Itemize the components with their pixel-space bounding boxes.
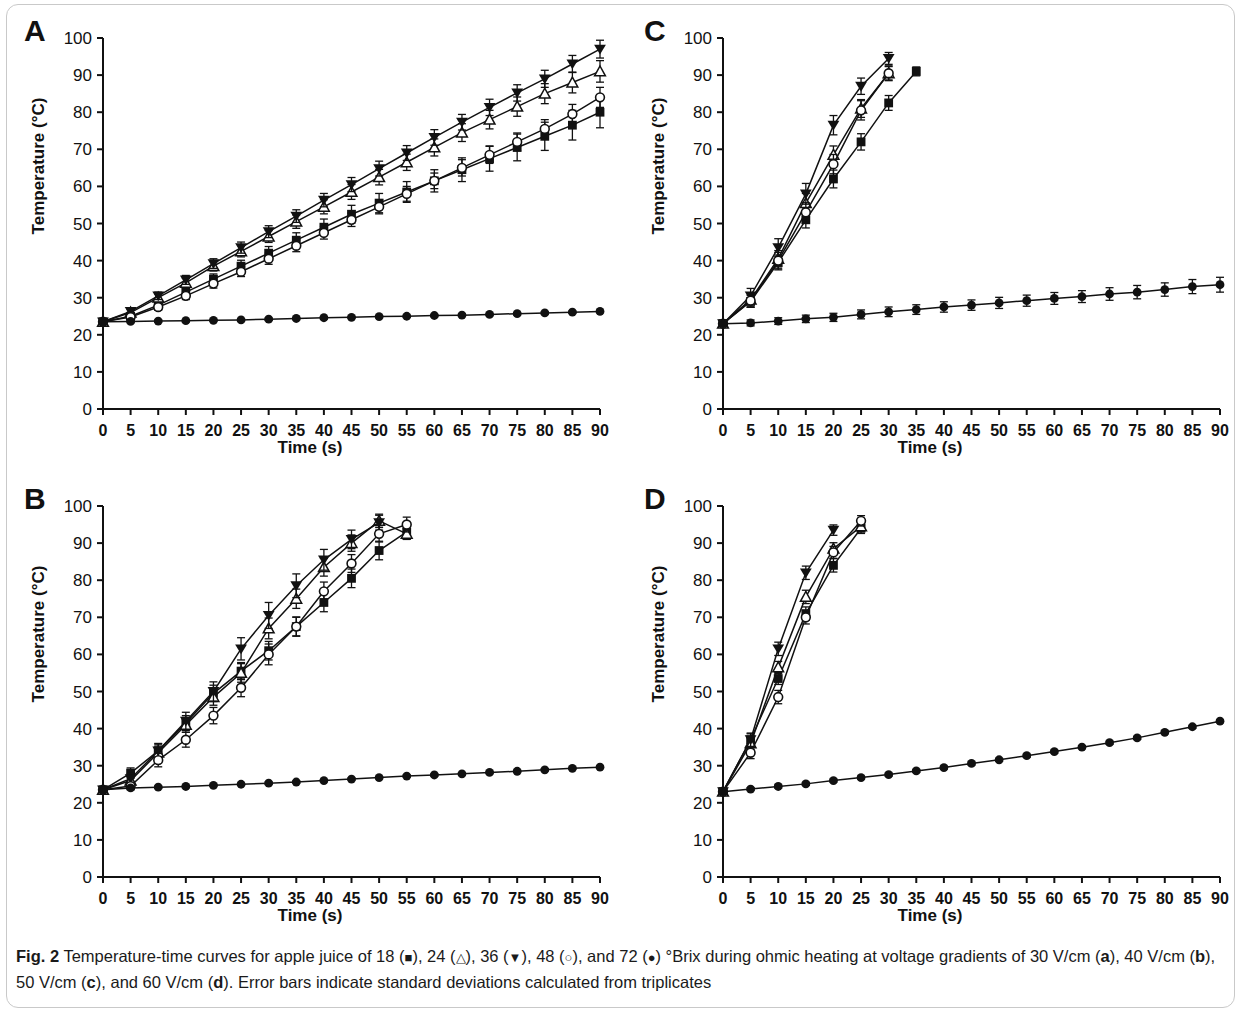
svg-text:90: 90 xyxy=(1211,890,1229,904)
svg-text:10: 10 xyxy=(149,422,167,436)
svg-text:60: 60 xyxy=(1045,890,1063,904)
svg-text:35: 35 xyxy=(907,890,925,904)
svg-text:80: 80 xyxy=(536,890,554,904)
svg-text:80: 80 xyxy=(73,103,92,122)
svg-text:30: 30 xyxy=(693,757,712,776)
svg-text:10: 10 xyxy=(693,363,712,382)
svg-text:0: 0 xyxy=(83,868,92,887)
svg-text:90: 90 xyxy=(1211,422,1229,436)
svg-text:0: 0 xyxy=(83,400,92,419)
svg-text:70: 70 xyxy=(693,140,712,159)
svg-text:20: 20 xyxy=(205,890,223,904)
svg-text:10: 10 xyxy=(73,363,92,382)
caption-figure-number: Fig. 2 xyxy=(16,947,59,965)
svg-text:25: 25 xyxy=(852,422,870,436)
svg-text:40: 40 xyxy=(73,720,92,739)
svg-text:40: 40 xyxy=(693,720,712,739)
svg-text:40: 40 xyxy=(73,252,92,271)
svg-text:50: 50 xyxy=(370,890,388,904)
x-axis-label-a: Time (s) xyxy=(10,438,610,458)
svg-text:20: 20 xyxy=(73,326,92,345)
svg-text:80: 80 xyxy=(1156,422,1174,436)
svg-text:5: 5 xyxy=(126,890,135,904)
svg-text:40: 40 xyxy=(693,252,712,271)
figure-caption: Fig. 2 Temperature-time curves for apple… xyxy=(16,944,1221,995)
svg-text:70: 70 xyxy=(481,890,499,904)
svg-text:30: 30 xyxy=(880,422,898,436)
svg-text:60: 60 xyxy=(1045,422,1063,436)
svg-text:85: 85 xyxy=(1183,422,1201,436)
svg-text:60: 60 xyxy=(73,645,92,664)
svg-text:100: 100 xyxy=(64,497,92,516)
svg-text:5: 5 xyxy=(126,422,135,436)
svg-text:65: 65 xyxy=(453,890,471,904)
svg-text:80: 80 xyxy=(536,422,554,436)
svg-text:70: 70 xyxy=(481,422,499,436)
plot-area-d: 0102030405060708090100051015202530354045… xyxy=(630,474,1241,904)
svg-text:100: 100 xyxy=(64,29,92,48)
svg-text:75: 75 xyxy=(508,890,526,904)
svg-text:90: 90 xyxy=(73,66,92,85)
svg-text:50: 50 xyxy=(990,422,1008,436)
svg-text:85: 85 xyxy=(563,422,581,436)
svg-text:40: 40 xyxy=(315,890,333,904)
svg-text:60: 60 xyxy=(425,890,443,904)
svg-text:15: 15 xyxy=(797,422,815,436)
svg-text:30: 30 xyxy=(260,890,278,904)
svg-text:35: 35 xyxy=(287,422,305,436)
x-axis-label-d: Time (s) xyxy=(630,906,1230,926)
svg-text:20: 20 xyxy=(73,794,92,813)
svg-text:5: 5 xyxy=(746,890,755,904)
svg-text:60: 60 xyxy=(73,177,92,196)
svg-text:45: 45 xyxy=(963,890,981,904)
svg-text:40: 40 xyxy=(315,422,333,436)
figure-panels: A Temperature (°C) 010203040506070809010… xyxy=(0,0,1241,938)
svg-text:75: 75 xyxy=(1128,890,1146,904)
svg-text:100: 100 xyxy=(684,29,712,48)
marker-glyph-72-icon: ● xyxy=(648,950,656,965)
svg-text:60: 60 xyxy=(425,422,443,436)
svg-text:40: 40 xyxy=(935,890,953,904)
svg-text:50: 50 xyxy=(693,683,712,702)
svg-text:70: 70 xyxy=(1101,890,1119,904)
svg-text:45: 45 xyxy=(963,422,981,436)
caption-panel-ref-c: c xyxy=(87,973,96,991)
marker-glyph-24-icon: △ xyxy=(456,950,466,965)
caption-text-7: ), 40 V/cm ( xyxy=(1110,947,1195,965)
svg-text:45: 45 xyxy=(343,422,361,436)
svg-text:65: 65 xyxy=(1073,422,1091,436)
svg-text:80: 80 xyxy=(73,571,92,590)
svg-text:50: 50 xyxy=(370,422,388,436)
svg-text:50: 50 xyxy=(693,215,712,234)
svg-text:65: 65 xyxy=(1073,890,1091,904)
svg-text:45: 45 xyxy=(343,890,361,904)
svg-text:75: 75 xyxy=(1128,422,1146,436)
svg-text:30: 30 xyxy=(260,422,278,436)
caption-text-5: ), and 72 ( xyxy=(572,947,647,965)
svg-text:90: 90 xyxy=(73,534,92,553)
svg-text:30: 30 xyxy=(73,289,92,308)
x-axis-label-b: Time (s) xyxy=(10,906,610,926)
caption-text-3: ), 36 ( xyxy=(466,947,509,965)
x-axis-label-c: Time (s) xyxy=(630,438,1230,458)
caption-panel-ref-a: a xyxy=(1101,947,1110,965)
svg-text:70: 70 xyxy=(73,140,92,159)
svg-text:25: 25 xyxy=(232,890,250,904)
caption-text-2: ), 24 ( xyxy=(412,947,455,965)
svg-text:20: 20 xyxy=(825,890,843,904)
svg-text:50: 50 xyxy=(990,890,1008,904)
svg-text:85: 85 xyxy=(563,890,581,904)
svg-text:90: 90 xyxy=(591,890,609,904)
svg-text:55: 55 xyxy=(398,422,416,436)
svg-text:0: 0 xyxy=(99,890,108,904)
plot-area-c: 0102030405060708090100051015202530354045… xyxy=(630,6,1241,436)
svg-text:20: 20 xyxy=(205,422,223,436)
svg-text:0: 0 xyxy=(719,890,728,904)
plot-area-a: 0102030405060708090100051015202530354045… xyxy=(10,6,630,436)
svg-text:5: 5 xyxy=(746,422,755,436)
svg-text:0: 0 xyxy=(99,422,108,436)
svg-text:15: 15 xyxy=(177,890,195,904)
svg-text:10: 10 xyxy=(769,422,787,436)
caption-text-10: ). Error bars indicate standard deviatio… xyxy=(223,973,711,991)
svg-text:35: 35 xyxy=(907,422,925,436)
